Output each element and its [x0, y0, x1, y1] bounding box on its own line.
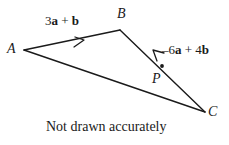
vector-diagram-figure: A B C P 3a + b –6a + 4b Not drawn accura… [0, 0, 229, 145]
vertex-label-p: P [152, 72, 161, 86]
vector-label-ab-b: b [72, 13, 79, 28]
vector-label-cb-coef: –6 [162, 42, 175, 57]
segment-AB [24, 30, 120, 50]
vertex-label-b: B [117, 7, 126, 21]
vector-label-cb-op: + 4 [182, 42, 202, 57]
vertex-label-a: A [7, 42, 16, 56]
vector-label-ab: 3a + b [45, 14, 79, 27]
figure-caption: Not drawn accurately [46, 120, 167, 134]
segment-AC [24, 50, 205, 112]
vector-label-ab-op: + [58, 13, 72, 28]
vertex-label-c: C [208, 105, 217, 119]
point-P-marker [160, 64, 164, 68]
vector-label-cb-b: b [202, 42, 209, 57]
vector-label-cb: –6a + 4b [162, 43, 209, 56]
